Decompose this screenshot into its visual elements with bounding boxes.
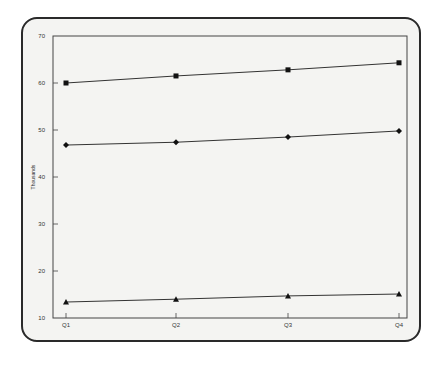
square-marker [64, 81, 69, 86]
chart-axes: 10203040506070Q1Q2Q3Q4Thousands [30, 33, 407, 328]
square-marker [397, 60, 402, 65]
plot-area [53, 36, 407, 318]
diamond-marker [63, 142, 69, 148]
series-line [66, 294, 399, 302]
y-axis-label: Thousands [30, 164, 36, 189]
x-tick-label: Q1 [62, 322, 71, 328]
y-tick-label: 10 [38, 315, 45, 321]
x-tick-label: Q3 [284, 322, 293, 328]
y-tick-label: 50 [38, 127, 45, 133]
x-tick-label: Q4 [395, 322, 404, 328]
series-line [66, 131, 399, 145]
series-line [66, 63, 399, 83]
y-tick-label: 40 [38, 174, 45, 180]
line-chart: 10203040506070Q1Q2Q3Q4Thousands [0, 0, 445, 367]
diamond-marker [285, 134, 291, 140]
y-tick-label: 60 [38, 80, 45, 86]
square-marker [286, 67, 291, 72]
square-marker [174, 73, 179, 78]
y-tick-label: 70 [38, 33, 45, 39]
y-tick-label: 20 [38, 268, 45, 274]
y-tick-label: 30 [38, 221, 45, 227]
diamond-marker [173, 139, 179, 145]
chart-series [63, 60, 402, 304]
x-tick-label: Q2 [172, 322, 181, 328]
diamond-marker [396, 128, 402, 134]
